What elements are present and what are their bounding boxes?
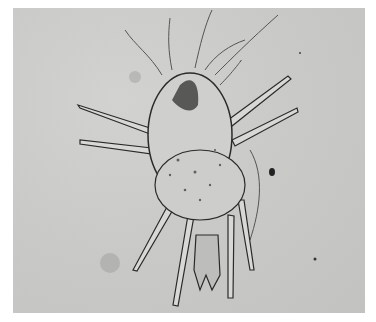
micrograph-photo: Photomicrograph of a mite (dorsal view) … — [13, 8, 365, 313]
mite-illustration — [13, 8, 365, 313]
